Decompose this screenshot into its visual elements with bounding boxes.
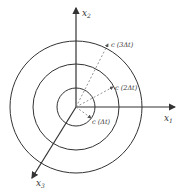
wavefront-diagram: x2 x1 x3 c (3Δt) c (2Δt) c (Δt) xyxy=(0,0,183,190)
x3-label: x3 xyxy=(36,178,45,189)
x2-label: x2 xyxy=(82,8,91,19)
label-dt: c (Δt) xyxy=(92,118,111,126)
x3-axis xyxy=(32,107,76,178)
x1-label: x1 xyxy=(164,113,173,124)
label-2dt: c (2Δt) xyxy=(115,84,138,92)
label-3dt: c (3Δt) xyxy=(111,41,134,49)
radius-arrow-dt xyxy=(76,107,91,118)
